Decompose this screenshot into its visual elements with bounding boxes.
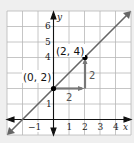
point-label-2-4: (2, 4) <box>56 45 84 57</box>
run-label: 2 <box>66 92 72 103</box>
x-tick-3: 3 <box>98 122 104 132</box>
point-0-2 <box>51 86 56 91</box>
point-label-0-2: (0, 2) <box>23 71 51 83</box>
x-tick-2: 2 <box>82 122 88 132</box>
rise-label: 2 <box>89 70 95 81</box>
coordinate-graph: −1 1 2 3 4 x 1 4 5 6 y 2 2 (0, 2) (2, 4) <box>0 0 134 143</box>
y-tick-4: 4 <box>45 52 51 62</box>
y-axis-label: y <box>56 12 63 22</box>
x-axis-label: x <box>123 122 128 132</box>
x-tick-4: 4 <box>113 122 119 132</box>
x-tick-1: 1 <box>67 122 73 132</box>
y-tick-6: 6 <box>45 21 51 31</box>
y-tick-5: 5 <box>45 37 51 47</box>
y-tick-1: 1 <box>46 99 52 109</box>
x-tick-neg1: −1 <box>28 122 41 132</box>
